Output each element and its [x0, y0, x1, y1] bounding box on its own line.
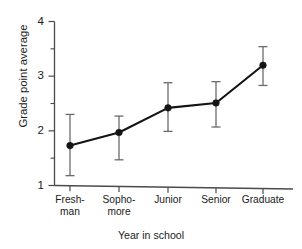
- x-axis-title: Year in school: [0, 229, 302, 241]
- data-point-markers: [67, 62, 267, 149]
- x-tick-label: Graduate: [232, 194, 294, 206]
- data-point: [260, 62, 267, 69]
- data-point: [165, 105, 172, 112]
- error-bars: [66, 47, 268, 176]
- grade-point-average-line-chart: 1234 Fresh- manSopho- moreJuniorSeniorGr…: [0, 0, 302, 249]
- y-axis-ticks: [49, 22, 55, 186]
- y-axis-title: Grade point average: [17, 1, 29, 151]
- data-point: [67, 142, 74, 149]
- data-point: [213, 100, 220, 107]
- axes: [55, 22, 294, 190]
- x-axis-line: [55, 186, 294, 190]
- data-point: [116, 129, 123, 136]
- y-tick-label: 1: [26, 179, 44, 191]
